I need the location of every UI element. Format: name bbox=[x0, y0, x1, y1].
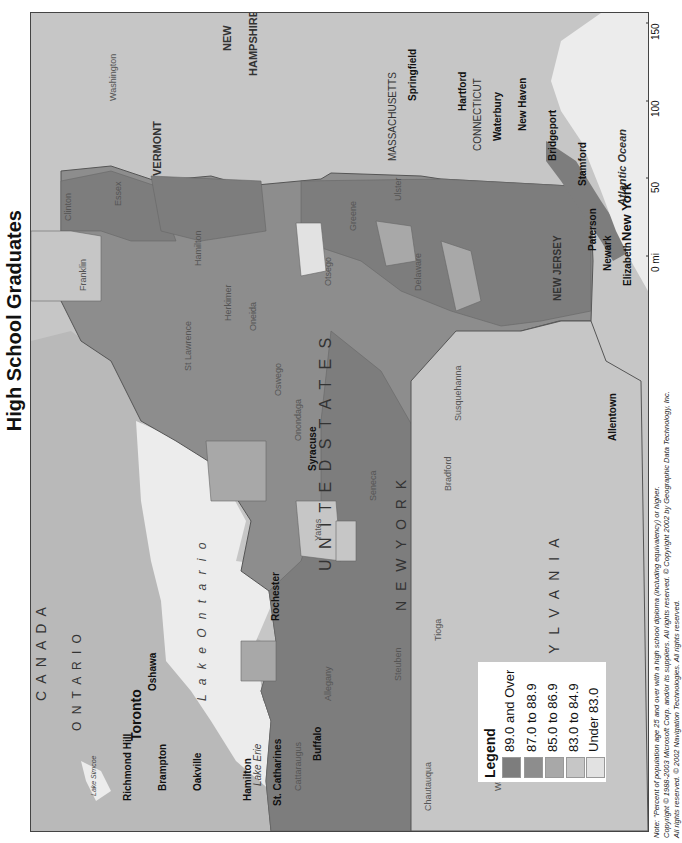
city-st-catharines: St. Catharines bbox=[272, 738, 283, 806]
svg-text:Ulster: Ulster bbox=[393, 177, 403, 201]
city-springfield: Springfield bbox=[407, 49, 418, 101]
legend-label-89-plus: 89.0 and Over bbox=[502, 670, 517, 752]
city-elizabeth: Elizabeth bbox=[622, 242, 633, 286]
svg-text:Otsego: Otsego bbox=[323, 257, 333, 286]
svg-text:Herkimer: Herkimer bbox=[223, 284, 233, 321]
svg-text:Bradford: Bradford bbox=[443, 456, 453, 491]
svg-text:Onondaga: Onondaga bbox=[293, 399, 303, 441]
map-title-area: High School Graduates bbox=[0, 0, 30, 843]
legend-label-85-86: 85.0 to 86.9 bbox=[545, 683, 560, 752]
label-new-hampshire-2: HAMPSHIRE bbox=[247, 13, 259, 76]
svg-text:Oneida: Oneida bbox=[248, 302, 258, 331]
scale-labels: 0 mi 50 100 150 bbox=[650, 0, 680, 843]
svg-text:Susquehanna: Susquehanna bbox=[453, 365, 463, 421]
city-newark: Newark bbox=[602, 235, 613, 271]
svg-text:Hamilton: Hamilton bbox=[193, 230, 203, 266]
city-hamilton: Hamilton bbox=[242, 758, 253, 801]
svg-text:Yates: Yates bbox=[313, 518, 323, 541]
label-lake-ontario: L a k e O n t a r i o bbox=[195, 540, 209, 702]
legend-label-87-88: 87.0 to 88.9 bbox=[524, 683, 539, 752]
label-lake-simcoe: Lake Simcoe bbox=[90, 755, 97, 796]
label-vermont: VERMONT bbox=[151, 121, 163, 176]
svg-text:Chautauqua: Chautauqua bbox=[423, 762, 433, 811]
scale-label-100: 100 bbox=[650, 100, 661, 117]
svg-text:Washington: Washington bbox=[108, 54, 118, 101]
svg-text:Seneca: Seneca bbox=[368, 470, 378, 501]
scale-label-150: 150 bbox=[650, 23, 661, 40]
scale-label-0: 0 mi bbox=[650, 253, 661, 272]
label-new-jersey: NEW JERSEY bbox=[552, 235, 563, 301]
svg-text:St Lawrence: St Lawrence bbox=[183, 321, 193, 371]
label-canada: C A N A D A bbox=[33, 605, 49, 701]
svg-text:Franklin: Franklin bbox=[78, 259, 88, 291]
legend-swatch-87-88 bbox=[524, 757, 543, 778]
legend-label-83-84: 83.0 to 84.9 bbox=[566, 683, 581, 752]
legend-label-under-83: Under 83.0 bbox=[586, 688, 601, 752]
svg-text:Clinton: Clinton bbox=[63, 193, 73, 221]
city-paterson: Paterson bbox=[587, 208, 598, 251]
svg-text:Greene: Greene bbox=[348, 201, 358, 231]
label-connecticut: CONNECTICUT bbox=[472, 78, 483, 151]
city-syracuse: Syracuse bbox=[307, 426, 318, 471]
svg-text:Tioga: Tioga bbox=[433, 619, 443, 641]
city-allentown: Allentown bbox=[607, 393, 618, 441]
city-new-haven: New Haven bbox=[517, 78, 528, 131]
legend: Legend 89.0 and Over 87.0 to 88.9 85.0 t… bbox=[478, 662, 606, 782]
label-lake-erie: Lake Erie bbox=[252, 743, 263, 786]
scale-label-50: 50 bbox=[650, 182, 661, 193]
city-buffalo: Buffalo bbox=[312, 727, 323, 761]
legend-swatch-85-86 bbox=[545, 757, 564, 778]
svg-text:Essex: Essex bbox=[113, 181, 123, 206]
label-ontario: O N T A R I O bbox=[70, 632, 84, 731]
city-rochester: Rochester bbox=[270, 572, 281, 621]
city-richmond-hill: Richmond Hill bbox=[122, 734, 133, 801]
label-new-york: N E W Y O R K bbox=[393, 477, 409, 611]
city-stamford: Stamford bbox=[577, 142, 588, 186]
legend-swatch-89-plus bbox=[502, 757, 521, 778]
label-massachusetts: MASSACHUSETTS bbox=[387, 72, 398, 161]
city-new-york: New York bbox=[619, 182, 634, 241]
city-toronto: Toronto bbox=[128, 689, 144, 741]
city-oshawa: Oshawa bbox=[147, 652, 158, 691]
legend-swatch-under-83 bbox=[586, 757, 605, 778]
city-hartford: Hartford bbox=[457, 72, 468, 111]
svg-text:Steuben: Steuben bbox=[393, 647, 403, 681]
svg-text:Oswego: Oswego bbox=[273, 363, 283, 396]
svg-text:Cattaraugus: Cattaraugus bbox=[293, 741, 303, 791]
label-new-hampshire-1: NEW bbox=[221, 25, 233, 51]
city-oakville: Oakville bbox=[192, 752, 203, 791]
map-title: High School Graduates bbox=[3, 210, 26, 431]
svg-text:Delaware: Delaware bbox=[413, 253, 423, 291]
city-brampton: Brampton bbox=[157, 744, 168, 791]
svg-text:Allegany: Allegany bbox=[323, 666, 333, 701]
legend-title: Legend bbox=[482, 728, 498, 778]
legend-swatch-83-84 bbox=[566, 757, 585, 778]
city-bridgeport: Bridgeport bbox=[547, 109, 558, 161]
city-waterbury: Waterbury bbox=[492, 91, 503, 141]
